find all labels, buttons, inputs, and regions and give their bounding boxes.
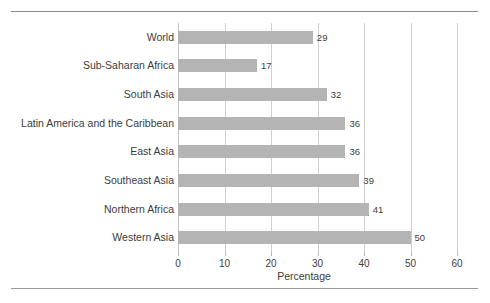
bar bbox=[178, 145, 345, 158]
bar-value-label: 36 bbox=[349, 117, 360, 130]
bottom-divider-rule bbox=[11, 288, 478, 289]
bar-value-label: 32 bbox=[331, 88, 342, 101]
bar-value-label: 17 bbox=[261, 59, 272, 72]
bar-value-label: 39 bbox=[363, 174, 374, 187]
x-axis-title-label: Percentage bbox=[277, 270, 331, 282]
category-label: Latin America and the Caribbean bbox=[21, 117, 174, 130]
category-label: Northern Africa bbox=[104, 203, 174, 216]
x-tick-label: 50 bbox=[405, 258, 416, 270]
bar-value-label: 50 bbox=[415, 231, 426, 244]
gridline-60 bbox=[457, 23, 458, 252]
gridline-50 bbox=[411, 23, 412, 252]
gridline-10 bbox=[225, 23, 226, 252]
category-label: Southeast Asia bbox=[104, 174, 174, 187]
category-axis: WorldSub-Saharan AfricaSouth AsiaLatin A… bbox=[0, 23, 174, 252]
category-label: East Asia bbox=[130, 145, 174, 158]
x-tick-mark bbox=[411, 252, 412, 256]
x-axis: 0102030405060 bbox=[178, 252, 457, 272]
category-label: Sub-Saharan Africa bbox=[83, 59, 174, 72]
x-tick-label: 40 bbox=[358, 258, 369, 270]
x-tick-mark bbox=[178, 252, 179, 256]
bar bbox=[178, 174, 359, 187]
plot-area: 2917323636394150 bbox=[178, 23, 457, 252]
x-tick-mark bbox=[271, 252, 272, 256]
gridline-20 bbox=[271, 23, 272, 252]
x-tick-label: 20 bbox=[265, 258, 276, 270]
x-tick-label: 0 bbox=[175, 258, 181, 270]
category-label: South Asia bbox=[124, 88, 174, 101]
gridline-0 bbox=[178, 23, 179, 252]
x-tick-label: 60 bbox=[451, 258, 462, 270]
bar-value-label: 41 bbox=[373, 203, 384, 216]
category-label: Western Asia bbox=[112, 231, 174, 244]
bar bbox=[178, 203, 369, 216]
bar bbox=[178, 117, 345, 130]
bar-chart-figure: WorldSub-Saharan AfricaSouth AsiaLatin A… bbox=[0, 0, 490, 303]
x-tick-mark bbox=[364, 252, 365, 256]
bar bbox=[178, 59, 257, 72]
bar bbox=[178, 231, 411, 244]
x-tick-label: 10 bbox=[219, 258, 230, 270]
x-tick-mark bbox=[457, 252, 458, 256]
gridline-30 bbox=[318, 23, 319, 252]
x-axis-title: Percentage bbox=[0, 270, 490, 282]
bar bbox=[178, 31, 313, 44]
top-divider-rule bbox=[11, 11, 478, 12]
x-tick-mark bbox=[225, 252, 226, 256]
category-label: World bbox=[147, 31, 174, 44]
gridline-40 bbox=[364, 23, 365, 252]
x-tick-label: 30 bbox=[312, 258, 323, 270]
bar bbox=[178, 88, 327, 101]
x-tick-mark bbox=[318, 252, 319, 256]
bar-value-label: 36 bbox=[349, 145, 360, 158]
bar-value-label: 29 bbox=[317, 31, 328, 44]
